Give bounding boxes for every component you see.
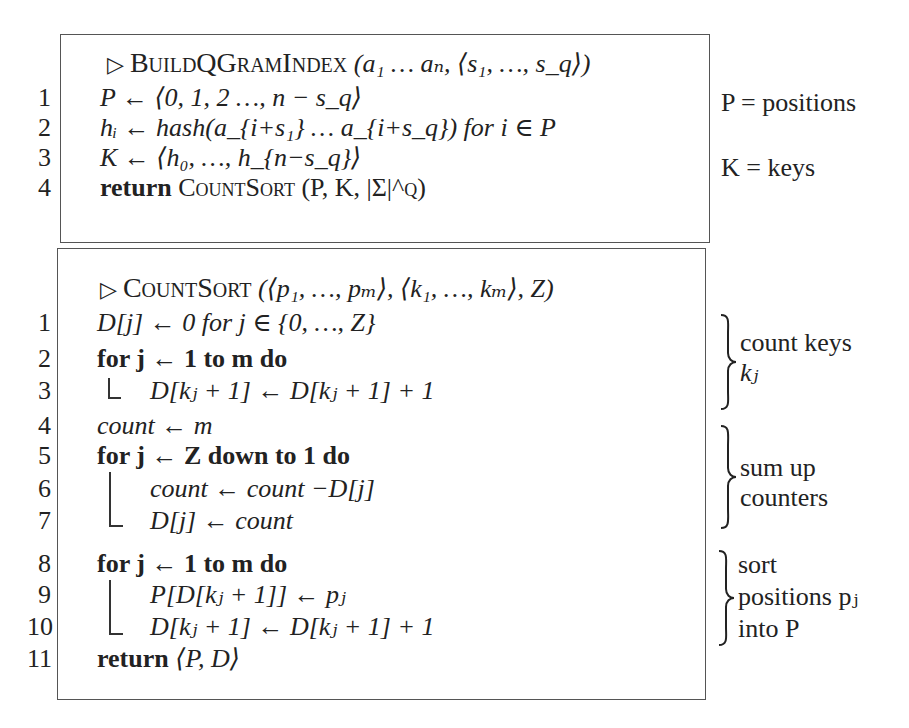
code-line: K ← ⟨h₀, …, h_{n−s_q}⟩ [100,143,361,173]
code-line: hᵢ ← hash(a_{i+s₁} … a_{i+s_q}) for i ∈ … [100,113,556,143]
annotation-positions-pj: positions pⱼ [738,582,858,612]
code-line: return CountSort (P, K, |Σ|^q) [100,173,426,203]
algorithm2-name: CountSort [123,272,252,303]
line-number: 3 [27,376,51,406]
code-line: P[D[kⱼ + 1]] ← pⱼ [150,580,346,610]
annotation-positions: P = positions [721,88,856,118]
annotation-keys: K = keys [721,153,815,183]
line-number: 1 [27,308,51,338]
code-line: count ← m [97,411,213,441]
code-line: D[j] ← count [150,506,293,536]
line-number: 3 [27,143,51,173]
loop-bracket-icon [107,472,125,528]
line-number: 2 [27,113,51,143]
code-line: D[kⱼ + 1] ← D[kⱼ + 1] + 1 [150,376,434,406]
right-brace-icon [718,424,738,530]
code-text: ⟨P, D⟩ [175,644,240,673]
triangle-marker-icon: ▷ [107,52,124,77]
algorithm2-header: ▷CountSort (⟨p₁, …, pₘ⟩, ⟨k₁, …, kₘ⟩, Z) [100,273,554,305]
annotation-into-p: into P [738,614,799,644]
loop-bracket-icon [107,378,123,400]
line-number: 10 [27,612,51,642]
return-keyword: return [100,173,172,202]
line-number: 1 [27,83,51,113]
annotation-sort: sort [738,550,777,580]
algorithm2-args: (⟨p₁, …, pₘ⟩, ⟨k₁, …, kₘ⟩, Z) [258,274,554,303]
annotation-count-keys-kj: kⱼ [740,358,758,388]
line-number: 11 [27,644,51,674]
code-line: count ← count −D[j] [150,474,375,504]
algorithm1-header: ▷BuildQGramIndex (a₁ … aₙ, ⟨s₁, …, s_q⟩) [107,48,590,80]
code-line: D[j] ← 0 for j ∈ {0, …, Z} [97,308,375,338]
code-line: P ← ⟨0, 1, 2 …, n − s_q⟩ [100,83,362,113]
code-line: for j ← 1 to m do [97,549,287,579]
line-number: 4 [27,411,51,441]
line-number: 9 [27,580,51,610]
right-brace-icon [718,313,738,411]
line-number: 7 [27,506,51,536]
right-brace-icon [716,549,736,647]
algorithm1-args: (a₁ … aₙ, ⟨s₁, …, s_q⟩) [354,49,591,78]
line-number: 8 [27,549,51,579]
line-number: 2 [27,344,51,374]
code-line: return ⟨P, D⟩ [97,644,240,674]
annotation-count-keys: count keys [740,328,852,358]
annotation-counters: counters [740,483,828,513]
triangle-marker-icon: ▷ [100,277,117,302]
line-number: 4 [27,173,51,203]
annotation-sum-up: sum up [740,453,816,483]
code-line: D[kⱼ + 1] ← D[kⱼ + 1] + 1 [150,612,434,642]
code-line: for j ← Z down to 1 do [97,441,350,471]
code-line: for j ← 1 to m do [97,344,287,374]
algorithm1-name: BuildQGramIndex [130,47,347,78]
line-number: 5 [27,441,51,471]
line-number: 6 [27,474,51,504]
code-text: CountSort (P, K, |Σ|^q) [178,173,426,202]
loop-bracket-icon [107,580,125,636]
return-keyword: return [97,644,169,673]
